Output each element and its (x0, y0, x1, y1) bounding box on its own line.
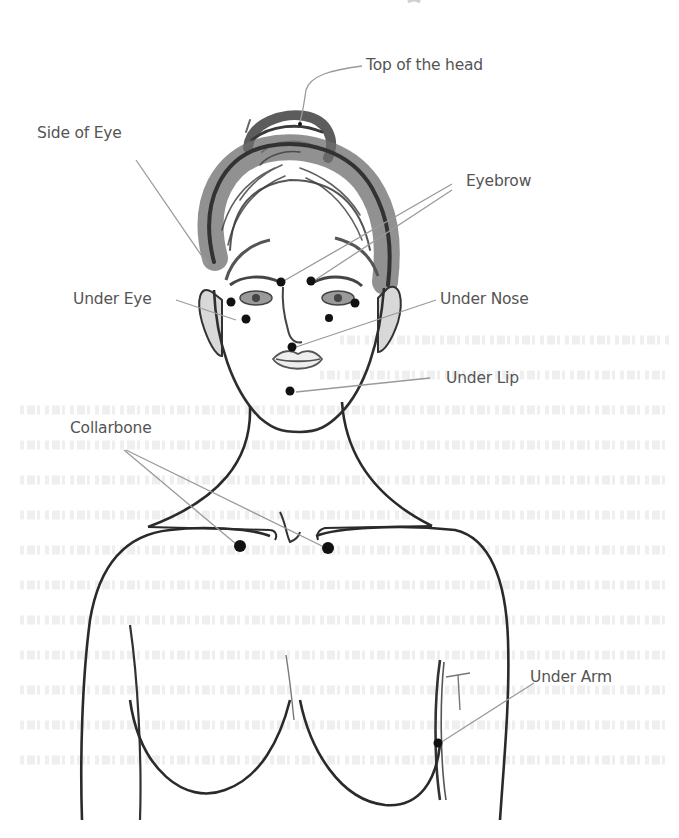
point-under-eye-right (325, 314, 333, 322)
label-under-arm: Under Arm (530, 668, 612, 686)
point-under-nose (288, 343, 297, 352)
nose (283, 287, 302, 343)
point-eyebrow-left (277, 278, 286, 287)
label-under-lip: Under Lip (446, 369, 519, 387)
arm-right-inner (436, 660, 441, 800)
neck-right (342, 402, 432, 526)
label-side-of-eye: Side of Eye (37, 124, 122, 142)
chest-right (300, 700, 440, 805)
eyebrow-right (314, 277, 362, 286)
point-side-of-eye-left (227, 298, 236, 307)
cropped-title-fragment (408, 0, 420, 2)
faint-background-text (20, 340, 670, 760)
point-under-eye-left (242, 315, 251, 324)
neck-left (148, 406, 250, 527)
label-under-nose: Under Nose (440, 290, 529, 308)
label-collarbone: Collarbone (70, 419, 151, 437)
lips (273, 351, 322, 369)
point-under-arm (434, 739, 443, 748)
shoulder-right (316, 527, 508, 820)
point-side-of-eye-right (351, 299, 360, 308)
chest-left (130, 700, 290, 793)
tapping-points-diagram: Top of the head Side of Eye Eyebrow Unde… (0, 0, 679, 838)
point-collarbone-left (234, 540, 246, 552)
point-eyebrow-right (307, 277, 316, 286)
shoulder-left (81, 528, 270, 820)
label-eyebrow: Eyebrow (466, 172, 531, 190)
point-top-of-head (298, 122, 302, 126)
label-under-eye: Under Eye (73, 290, 152, 308)
eyebrow-left (230, 277, 280, 285)
point-collarbone-right (322, 542, 334, 554)
point-under-lip (286, 387, 295, 396)
label-top-of-head: Top of the head (366, 56, 483, 74)
